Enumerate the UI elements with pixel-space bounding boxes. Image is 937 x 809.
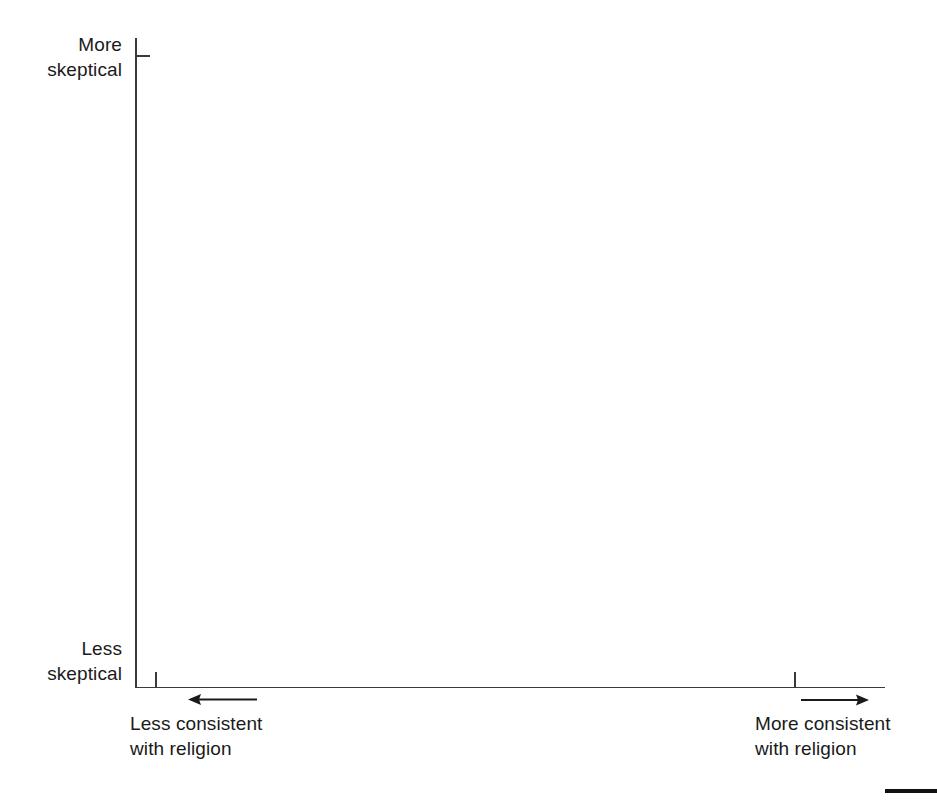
figure-canvas: More skeptical Less skeptical Less consi… [0, 0, 937, 809]
y-axis-tick-top [135, 55, 150, 57]
x-axis-line [135, 687, 885, 689]
y-axis-top-label: More skeptical [0, 32, 122, 82]
y-axis-line [135, 38, 137, 688]
x-axis-right-annotation: More consistent with religion [755, 690, 891, 761]
x-axis-tick-right [794, 672, 796, 687]
bottom-right-rule [885, 789, 937, 793]
y-axis-bottom-label: Less skeptical [0, 636, 122, 686]
arrow-left-icon [155, 690, 265, 712]
x-axis-left-annotation: Less consistent with religion [130, 690, 265, 761]
x-axis-right-annotation-text: More consistent with religion [755, 711, 891, 761]
x-axis-tick-left [155, 672, 157, 687]
x-axis-left-annotation-text: Less consistent with religion [130, 711, 265, 761]
arrow-right-icon [778, 690, 888, 712]
